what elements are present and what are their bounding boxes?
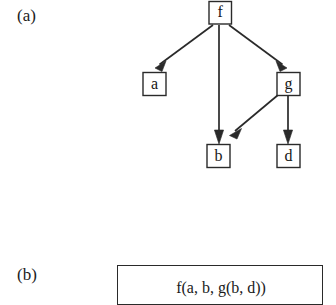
node-a[interactable]: a xyxy=(143,73,166,96)
edge-f-to-a xyxy=(155,25,213,72)
node-g-label: g xyxy=(285,75,293,93)
term-box: f(a, b, g(b, d)) xyxy=(117,265,323,305)
node-d[interactable]: d xyxy=(277,145,300,168)
node-f-label: f xyxy=(218,3,224,20)
edge-g-to-b xyxy=(230,95,279,139)
node-d-label: d xyxy=(285,147,293,164)
edge-f-to-b xyxy=(214,25,223,144)
dag-graph: f a g b d xyxy=(0,0,336,200)
panel-b-label: (b) xyxy=(17,266,37,283)
term-expression: f(a, b, g(b, d)) xyxy=(118,279,323,297)
edge-f-to-g xyxy=(229,25,287,72)
node-b-label: b xyxy=(215,147,223,164)
node-a-label: a xyxy=(151,75,158,92)
edge-g-to-d xyxy=(283,96,292,144)
node-f[interactable]: f xyxy=(209,2,232,25)
node-b[interactable]: b xyxy=(207,145,230,168)
node-g[interactable]: g xyxy=(277,73,300,96)
